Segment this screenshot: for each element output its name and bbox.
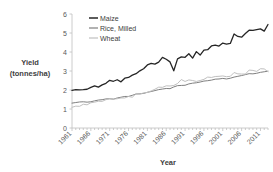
x-tick-label: 2006: [226, 130, 242, 146]
plot-area: 0123456196119661971197619811986199119962…: [10, 11, 268, 167]
x-tick-label: 1976: [113, 130, 129, 146]
y-tick-label: 1: [63, 106, 67, 113]
chart-figure: 0123456196119661971197619811986199119962…: [0, 0, 273, 172]
x-axis-title: Year: [160, 158, 176, 167]
x-tick-label: 1996: [189, 130, 205, 146]
line-chart-canvas: 0123456196119661971197619811986199119962…: [0, 0, 273, 172]
x-tick-label: 2001: [208, 130, 224, 146]
series-line-wheat: [72, 69, 268, 108]
x-tick-label: 1981: [132, 130, 148, 146]
x-tick-label: 1991: [170, 130, 186, 146]
y-tick-label: 5: [63, 30, 67, 37]
x-tick-label: 1986: [151, 130, 167, 146]
y-axis-title-line1: Yield: [21, 58, 39, 67]
series-line-rice-milled: [72, 71, 268, 103]
x-tick-label: 1971: [94, 130, 110, 146]
y-tick-label: 3: [63, 68, 67, 75]
y-tick-label: 2: [63, 87, 67, 94]
legend-label-rice-milled: Rice, Milled: [100, 25, 136, 32]
x-tick-label: 1961: [57, 130, 73, 146]
legend-label-maize: Maize: [100, 15, 119, 22]
y-tick-label: 6: [63, 11, 67, 18]
legend-label-wheat: Wheat: [100, 35, 120, 42]
y-axis-title-line2: (tonnes/ha): [10, 69, 51, 78]
x-tick-label: 1966: [76, 130, 92, 146]
y-tick-label: 4: [63, 49, 67, 56]
x-tick-label: 2011: [246, 130, 262, 146]
